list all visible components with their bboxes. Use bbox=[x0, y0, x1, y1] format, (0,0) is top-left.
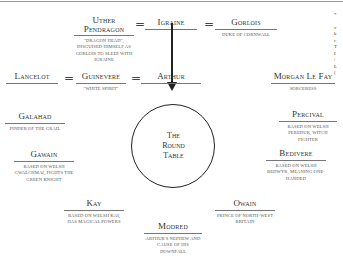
node-name: Arthur bbox=[141, 72, 201, 84]
node-bedivere: Bedivere Based on Welsh Bedwyr, meaning … bbox=[266, 149, 326, 182]
node-name: Morgan Le Fay bbox=[271, 72, 335, 84]
node-name: Gawain bbox=[14, 150, 74, 162]
node-name: Guinevere bbox=[76, 72, 126, 84]
equals-sign: = bbox=[204, 19, 214, 29]
node-description: Based on Welsh Peredur, witch fighter bbox=[279, 124, 337, 143]
node-description: Prince of North-West Britain bbox=[215, 213, 275, 226]
node-description: Sorceress bbox=[271, 86, 335, 92]
node-gorlois: Gorlois Duke of Cornwall bbox=[215, 18, 277, 38]
node-name: Kay bbox=[64, 199, 124, 211]
node-name: Lancelot bbox=[6, 72, 58, 84]
node-kay: Kay Based on Welsh Kai, has magical powe… bbox=[64, 199, 124, 226]
node-name: Galahad bbox=[5, 112, 65, 124]
label-line-1: The bbox=[167, 131, 180, 140]
name-line-2: Pendragon bbox=[84, 24, 124, 34]
equals-sign: = bbox=[135, 19, 145, 29]
fragment-line: ( bbox=[334, 70, 343, 77]
node-name: Modred bbox=[144, 222, 202, 234]
equals-sign: = bbox=[131, 73, 141, 83]
node-lancelot: Lancelot bbox=[6, 72, 58, 84]
node-name: Gorlois bbox=[215, 18, 277, 30]
node-arthur: Arthur bbox=[141, 72, 201, 84]
node-uther-pendragon: Uther Pendragon "Dragon head", disguised… bbox=[74, 16, 134, 64]
node-name: Owain bbox=[215, 199, 275, 211]
node-morgan-le-fay: Morgan Le Fay Sorceress bbox=[271, 72, 335, 92]
node-galahad: Galahad Finder of the Grail bbox=[5, 112, 65, 132]
node-description: Based on Welsh Kai, has magical powers bbox=[64, 213, 124, 226]
node-description: Based on Welsh Bedwyr, meaning one-hande… bbox=[266, 163, 326, 182]
node-owain: Owain Prince of North-West Britain bbox=[215, 199, 275, 226]
node-description: Duke of Cornwall bbox=[215, 32, 277, 38]
node-percival: Percival Based on Welsh Peredur, witch f… bbox=[279, 110, 337, 143]
top-rule bbox=[0, 1, 343, 2]
node-description: "Dragon head", disguised himself as Gorl… bbox=[74, 38, 134, 64]
node-guinevere: Guinevere "White spirit" bbox=[76, 72, 126, 92]
cropped-text-fragment: * v k r T I / L ( bbox=[334, 12, 343, 77]
node-description: Arthur's nephew and cause of his downfal… bbox=[144, 236, 202, 255]
node-name: Bedivere bbox=[266, 149, 326, 161]
round-table-label: The Round Table bbox=[131, 131, 216, 161]
node-description: Finder of the Grail bbox=[5, 126, 65, 132]
label-line-2: Round bbox=[162, 141, 185, 150]
node-name: Uther Pendragon bbox=[74, 16, 134, 36]
equals-sign: = bbox=[64, 73, 74, 83]
node-description: Based on Welsh Gwalchmai, fights the Gre… bbox=[14, 164, 74, 183]
label-line-3: Table bbox=[163, 151, 184, 160]
node-name: Percival bbox=[279, 110, 337, 122]
node-gawain: Gawain Based on Welsh Gwalchmai, fights … bbox=[14, 150, 74, 183]
node-description: "White spirit" bbox=[76, 86, 126, 92]
node-modred: Modred Arthur's nephew and cause of his … bbox=[144, 222, 202, 255]
